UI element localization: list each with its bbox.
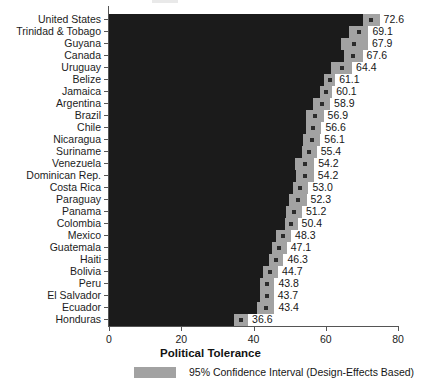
x-axis-tick xyxy=(254,326,255,331)
value-bar xyxy=(109,290,267,302)
point-estimate-marker xyxy=(274,258,278,262)
value-bar xyxy=(109,122,313,134)
bar-row: Guyana67.9 xyxy=(109,38,398,50)
point-estimate-marker xyxy=(268,270,272,274)
bar-row: Costa Rica53.0 xyxy=(109,182,398,194)
value-bar xyxy=(109,266,270,278)
value-bar xyxy=(109,242,279,254)
value-bar xyxy=(109,158,305,170)
value-bar xyxy=(109,302,266,314)
bar-row: Canada67.6 xyxy=(109,50,398,62)
point-estimate-marker xyxy=(296,198,300,202)
point-estimate-marker xyxy=(239,318,243,322)
bar-row: El Salvador43.7 xyxy=(109,290,398,302)
point-estimate-marker xyxy=(351,54,355,58)
point-estimate-marker xyxy=(298,186,302,190)
category-label: Honduras xyxy=(55,313,101,326)
value-bar xyxy=(109,314,241,326)
x-axis-tick xyxy=(181,326,182,331)
bar-row: United States72.6 xyxy=(109,14,398,26)
point-estimate-marker xyxy=(320,102,324,106)
value-bar xyxy=(109,194,298,206)
point-estimate-marker xyxy=(292,210,296,214)
point-estimate-marker xyxy=(340,66,344,70)
political-tolerance-chart: United States72.6Trinidad & Tobago69.1Gu… xyxy=(0,0,421,390)
point-estimate-marker xyxy=(265,282,269,286)
point-estimate-marker xyxy=(310,138,314,142)
bar-row: Mexico48.3 xyxy=(109,230,398,242)
bar-row: Peru43.8 xyxy=(109,278,398,290)
legend-swatch-confidence-interval xyxy=(134,367,176,378)
bar-row: Brazil56.9 xyxy=(109,110,398,122)
legend-label-confidence-interval: 95% Confidence Interval (Design-Effects … xyxy=(189,366,414,378)
x-axis-title: Political Tolerance xyxy=(0,347,421,359)
value-bar xyxy=(109,98,322,110)
bar-row: Honduras36.6 xyxy=(109,314,398,326)
x-axis-tick-label: 80 xyxy=(392,333,404,345)
bar-row: Venezuela54.2 xyxy=(109,158,398,170)
bar-row: Nicaragua56.1 xyxy=(109,134,398,146)
point-estimate-marker xyxy=(369,18,373,22)
point-estimate-marker xyxy=(277,246,281,250)
bar-row: Bolivia44.7 xyxy=(109,266,398,278)
bar-row: Dominican Rep.54.2 xyxy=(109,170,398,182)
bar-row: Panama51.2 xyxy=(109,206,398,218)
value-bar xyxy=(109,14,371,26)
top-edge-artifact xyxy=(152,0,178,3)
point-estimate-marker xyxy=(311,126,315,130)
chart-legend: 95% Confidence Interval (Design-Effects … xyxy=(134,366,414,378)
value-bar xyxy=(109,26,359,38)
x-axis-tick-label: 40 xyxy=(248,333,260,345)
point-estimate-marker xyxy=(264,306,268,310)
bar-row: Colombia50.4 xyxy=(109,218,398,230)
value-bar xyxy=(109,230,283,242)
value-bar xyxy=(109,254,276,266)
value-bar xyxy=(109,278,267,290)
point-estimate-marker xyxy=(328,78,332,82)
point-estimate-marker xyxy=(352,42,356,46)
value-label: 36.6 xyxy=(252,313,272,326)
point-estimate-marker xyxy=(313,114,317,118)
value-bar xyxy=(109,146,309,158)
x-axis-tick-label: 0 xyxy=(106,333,112,345)
point-estimate-marker xyxy=(303,174,307,178)
x-axis-tick xyxy=(109,326,110,331)
value-bar xyxy=(109,170,305,182)
x-axis-tick-label: 60 xyxy=(320,333,332,345)
point-estimate-marker xyxy=(281,234,285,238)
value-bar xyxy=(109,134,312,146)
value-bar xyxy=(109,206,294,218)
x-axis-tick-label: 20 xyxy=(175,333,187,345)
value-label: 43.4 xyxy=(278,301,298,314)
point-estimate-marker xyxy=(265,294,269,298)
bar-row: Paraguay52.3 xyxy=(109,194,398,206)
point-estimate-marker xyxy=(307,150,311,154)
bar-row: Haiti46.3 xyxy=(109,254,398,266)
value-bar xyxy=(109,182,300,194)
value-bar xyxy=(109,62,342,74)
bar-row: Suriname55.4 xyxy=(109,146,398,158)
value-bar xyxy=(109,110,315,122)
x-axis-tick xyxy=(398,326,399,331)
point-estimate-marker xyxy=(357,30,361,34)
value-bar xyxy=(109,50,353,62)
bar-row: Argentina58.9 xyxy=(109,98,398,110)
bar-row: Guatemala47.1 xyxy=(109,242,398,254)
point-estimate-marker xyxy=(289,222,293,226)
value-bar xyxy=(109,218,291,230)
value-bar xyxy=(109,86,326,98)
point-estimate-marker xyxy=(303,162,307,166)
value-bar xyxy=(109,38,354,50)
bar-row: Trinidad & Tobago69.1 xyxy=(109,26,398,38)
bar-row: Chile56.6 xyxy=(109,122,398,134)
value-bar xyxy=(109,74,330,86)
point-estimate-marker xyxy=(324,90,328,94)
plot-area: United States72.6Trinidad & Tobago69.1Gu… xyxy=(109,14,398,326)
x-axis-tick xyxy=(326,326,327,331)
